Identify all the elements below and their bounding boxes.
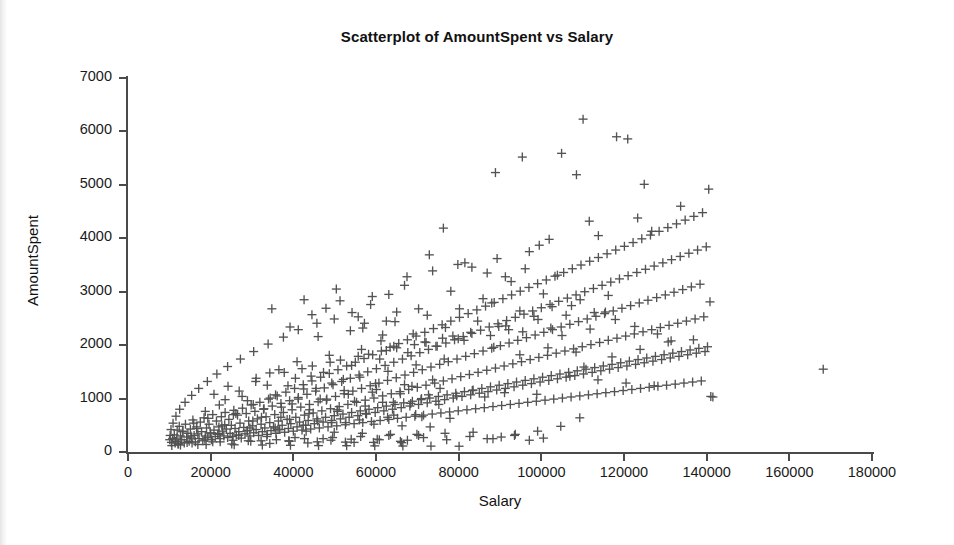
x-axis-tick — [871, 454, 873, 461]
x-axis-tick-label: 180000 — [817, 464, 927, 480]
chart-title: Scatterplot of AmountSpent vs Salary — [0, 28, 954, 45]
y-axis-tick-label: 2000 — [44, 335, 112, 351]
y-axis-tick — [119, 184, 126, 186]
data-points-group — [165, 115, 827, 451]
x-axis-tick — [788, 454, 790, 461]
x-axis-title: Salary — [128, 492, 872, 509]
y-axis-tick-label: 7000 — [44, 68, 112, 84]
y-axis-tick-label: 5000 — [44, 175, 112, 191]
y-axis-tick-label: 1000 — [44, 389, 112, 405]
y-axis-title: AmountSpent — [24, 171, 41, 351]
x-axis-tick — [458, 454, 460, 461]
x-axis-tick — [127, 454, 129, 461]
x-axis-tick — [292, 454, 294, 461]
x-axis-tick — [375, 454, 377, 461]
y-axis-tick — [119, 237, 126, 239]
data-points-layer — [128, 78, 872, 452]
x-axis-line — [126, 452, 874, 454]
x-axis-tick — [540, 454, 542, 461]
y-axis-tick — [119, 130, 126, 132]
y-axis-tick-label: 4000 — [44, 228, 112, 244]
y-axis-tick — [119, 398, 126, 400]
y-axis-tick — [119, 344, 126, 346]
x-axis-tick — [623, 454, 625, 461]
y-axis-tick — [119, 451, 126, 453]
y-axis-tick-label: 0 — [44, 442, 112, 458]
scatterplot-figure: Scatterplot of AmountSpent vs Salary 010… — [0, 0, 954, 545]
y-axis-tick — [119, 291, 126, 293]
y-axis-tick-label: 3000 — [44, 282, 112, 298]
plot-area — [128, 78, 872, 452]
x-axis-tick — [210, 454, 212, 461]
x-axis-tick — [706, 454, 708, 461]
y-axis-tick-label: 6000 — [44, 121, 112, 137]
y-axis-tick — [119, 77, 126, 79]
